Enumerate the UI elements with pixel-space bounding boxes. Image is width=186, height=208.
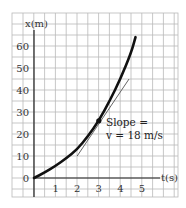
x-tick-label: 4 [117,183,123,194]
tangent-point [96,118,101,123]
position-time-chart: 12345 0102030405060 t(s) x(m) Slope = v … [0,0,186,208]
x-tick-label: 1 [52,183,58,194]
annotation-velocity: v = 18 m/s [105,129,163,141]
y-tick-label: 60 [16,41,29,52]
x-tick-label: 3 [96,183,102,194]
x-tick-label: 2 [74,183,80,194]
grid-frame [12,13,178,197]
y-axis-label: x(m) [25,18,48,29]
y-tick-label: 50 [16,63,29,74]
y-tick-label: 20 [16,129,29,140]
y-tick-label: 0 [23,173,29,184]
y-tick-label: 30 [16,107,29,118]
y-tick-label: 40 [16,85,29,96]
grid [12,13,178,197]
annotation-slope: Slope = [106,116,148,128]
y-tick-label: 10 [16,151,29,162]
x-axis-label: t(s) [161,172,178,183]
x-tick-label: 5 [139,183,145,194]
